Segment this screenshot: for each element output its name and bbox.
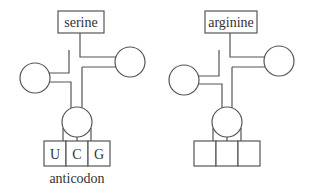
left-arm-upper-line — [49, 50, 69, 73]
base-1-label: U — [50, 147, 60, 162]
base-3-label: G — [94, 147, 104, 162]
anticodon-base-box — [216, 141, 238, 166]
left-arm-upper-line — [198, 50, 219, 76]
amino-acid-label: serine — [64, 15, 97, 30]
anticodon-connectors — [63, 128, 91, 141]
anticodon-loop — [212, 107, 242, 137]
acceptor-stem-line — [80, 33, 116, 57]
left-arm-lower-line — [49, 82, 71, 108]
anticodon-connectors — [213, 128, 241, 141]
anticodon-base-box — [194, 141, 216, 166]
left-loop — [20, 63, 50, 93]
trna-arginine: arginine — [169, 11, 294, 166]
anticodon-base-box — [238, 141, 260, 166]
left-loop — [169, 65, 199, 95]
anticodon-loop — [62, 107, 92, 137]
base-2-label: C — [72, 147, 81, 162]
trna-serine: serine U C G anticodon — [20, 11, 145, 186]
left-arm-lower-line — [198, 84, 222, 108]
right-loop — [115, 47, 145, 77]
anticodon-label: anticodon — [49, 171, 104, 186]
trna-figure: serine U C G anticodon arginine — [0, 0, 309, 193]
amino-acid-label: arginine — [208, 15, 254, 30]
acceptor-stem-line — [230, 33, 265, 57]
right-loop — [264, 46, 294, 76]
